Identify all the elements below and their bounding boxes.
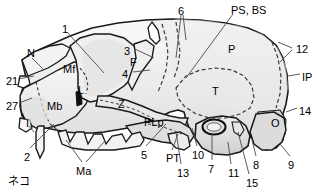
figure-canvas: 1 2 3 4 5 6 7 8 9 10 11 12 13 14 15 21 2… xyxy=(0,0,317,194)
label-2: 2 xyxy=(24,152,30,163)
label-27: 27 xyxy=(6,101,18,112)
leader-12a xyxy=(278,42,292,48)
leader-IP xyxy=(288,74,300,76)
upper-canine xyxy=(36,126,44,158)
label-15: 15 xyxy=(246,178,258,189)
label-palatine-PLp: PLp xyxy=(144,117,164,128)
label-9: 9 xyxy=(288,160,294,171)
leader-9 xyxy=(280,144,290,156)
figure-caption: ネコ xyxy=(8,176,30,187)
label-14: 14 xyxy=(299,106,311,117)
label-maxilla-Mf: Mf xyxy=(63,64,75,75)
label-10: 10 xyxy=(192,150,204,161)
label-parietal-P: P xyxy=(228,44,235,55)
label-11: 11 xyxy=(228,168,239,179)
label-maxilla-body-Mb: Mb xyxy=(47,101,62,112)
cat-skull-drawing xyxy=(0,0,317,194)
label-7: 7 xyxy=(208,164,214,175)
label-presphenoid-basisphenoid-PS-BS: PS, BS xyxy=(231,5,266,16)
label-temporal-T: T xyxy=(212,86,219,97)
label-4: 4 xyxy=(122,69,128,80)
label-12: 12 xyxy=(296,44,308,55)
pterygoid-process xyxy=(168,132,190,150)
label-lacrimal-L: L xyxy=(78,85,84,96)
label-occipital-O: O xyxy=(271,118,280,129)
leader-14 xyxy=(286,108,297,112)
label-interparietal-IP: IP xyxy=(302,72,312,83)
label-zygomatic-Z: Z xyxy=(118,99,125,110)
label-21: 21 xyxy=(6,76,18,87)
skull-outline-group xyxy=(18,19,288,158)
label-nasal-N: N xyxy=(27,48,35,59)
label-molar-Ma: Ma xyxy=(76,166,91,177)
label-5: 5 xyxy=(141,150,147,161)
label-pterygoid-PT: PT xyxy=(166,153,180,164)
label-13: 13 xyxy=(177,168,189,179)
label-8: 8 xyxy=(253,160,259,171)
label-6: 6 xyxy=(178,6,184,17)
label-1: 1 xyxy=(62,24,68,35)
label-incisive-I: I xyxy=(26,118,29,129)
label-frontal-F: F xyxy=(130,57,137,68)
meatus-inner xyxy=(207,123,221,131)
